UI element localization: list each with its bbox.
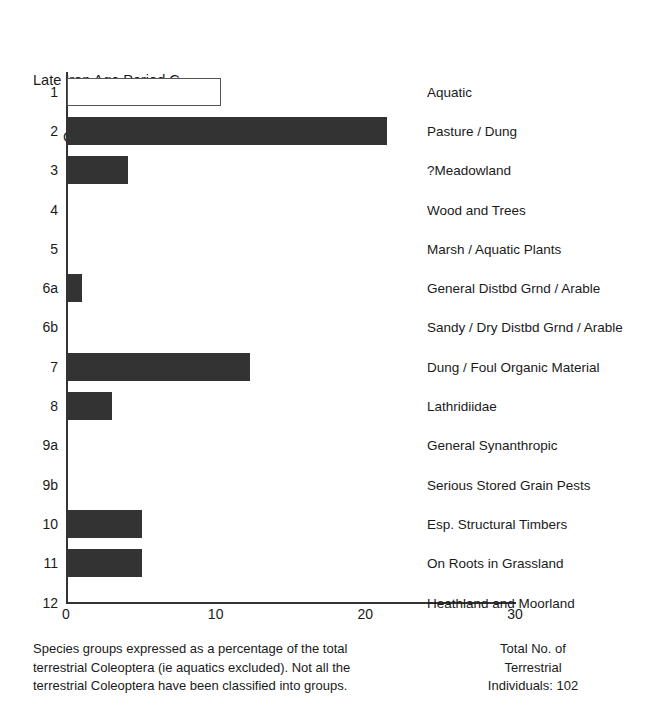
table-row: 6aGeneral Distbd Grnd / Arable [0, 269, 658, 308]
category-label: 6b [0, 319, 58, 335]
series-label: On Roots in Grassland [427, 556, 564, 571]
category-label: 11 [0, 555, 58, 571]
caption-total-line-3: Individuals: 102 [418, 677, 648, 696]
table-row: 4Wood and Trees [0, 190, 658, 229]
series-label: Esp. Structural Timbers [427, 516, 567, 531]
category-label: 9b [0, 477, 58, 493]
caption-total: Total No. of Terrestrial Individuals: 10… [418, 640, 648, 696]
x-tick-label: 0 [62, 606, 70, 622]
caption-note-line-1: Species groups expressed as a percentage… [33, 640, 383, 659]
x-tick-label: 20 [358, 606, 374, 622]
category-label: 9a [0, 437, 58, 453]
category-label: 5 [0, 241, 58, 257]
series-label: ?Meadowland [427, 163, 511, 178]
bar [67, 549, 142, 577]
caption-total-line-2: Terrestrial [418, 659, 648, 678]
category-label: 8 [0, 398, 58, 414]
table-row: 5Marsh / Aquatic Plants [0, 229, 658, 268]
x-tick-label: 10 [208, 606, 224, 622]
table-row: 6bSandy / Dry Distbd Grnd / Arable [0, 308, 658, 347]
series-label: General Distbd Grnd / Arable [427, 281, 600, 296]
category-label: 6a [0, 280, 58, 296]
table-row: 3?Meadowland [0, 151, 658, 190]
table-row: 11On Roots in Grassland [0, 544, 658, 583]
caption-total-line-1: Total No. of [418, 640, 648, 659]
category-label: 1 [0, 84, 58, 100]
bar [67, 274, 82, 302]
bar [67, 353, 250, 381]
table-row: 2Pasture / Dung [0, 111, 658, 150]
bar [67, 510, 142, 538]
bar [67, 78, 221, 106]
category-label: 2 [0, 123, 58, 139]
caption-note-line-2: terrestrial Coleoptera (ie aquatics excl… [33, 659, 383, 678]
table-row: 9bSerious Stored Grain Pests [0, 465, 658, 504]
series-label: Marsh / Aquatic Plants [427, 241, 561, 256]
category-label: 10 [0, 516, 58, 532]
category-label: 4 [0, 202, 58, 218]
category-label: 3 [0, 162, 58, 178]
table-row: 9aGeneral Synanthropic [0, 426, 658, 465]
bar [67, 156, 128, 184]
series-label: Dung / Foul Organic Material [427, 359, 600, 374]
table-row: 1Aquatic [0, 72, 658, 111]
series-label: Aquatic [427, 84, 472, 99]
table-row: 12Heathland and Moorland [0, 583, 658, 622]
category-label: 7 [0, 359, 58, 375]
category-label: 12 [0, 595, 58, 611]
bar [67, 117, 387, 145]
series-label: Sandy / Dry Distbd Grnd / Arable [427, 320, 623, 335]
series-label: General Synanthropic [427, 438, 558, 453]
series-label: Wood and Trees [427, 202, 526, 217]
table-row: 10Esp. Structural Timbers [0, 504, 658, 543]
bar [67, 392, 112, 420]
series-label: Heathland and Moorland [427, 595, 575, 610]
caption-note-line-3: terrestrial Coleoptera have been classif… [33, 677, 383, 696]
series-label: Serious Stored Grain Pests [427, 477, 591, 492]
series-label: Lathridiidae [427, 399, 497, 414]
table-row: 7Dung / Foul Organic Material [0, 347, 658, 386]
caption-note: Species groups expressed as a percentage… [33, 640, 383, 696]
series-label: Pasture / Dung [427, 123, 517, 138]
table-row: 8Lathridiidae [0, 386, 658, 425]
x-tick-label: 30 [507, 606, 523, 622]
